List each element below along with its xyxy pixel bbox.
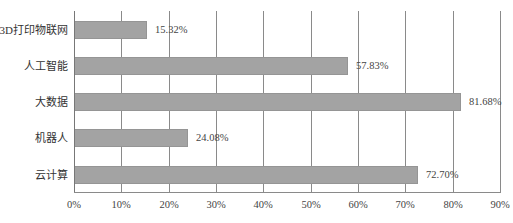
- x-axis-line: [74, 192, 501, 193]
- category-label: 人工智能: [0, 57, 68, 75]
- bar-ai: [75, 57, 348, 75]
- x-tick-label: 30%: [196, 199, 236, 210]
- x-tick-label: 80%: [433, 199, 473, 210]
- x-tick-label: 20%: [149, 199, 189, 210]
- value-label: 57.83%: [356, 57, 388, 75]
- value-label: 24.08%: [196, 129, 228, 147]
- x-tick-label: 0%: [54, 199, 94, 210]
- x-tick-label: 60%: [338, 199, 378, 210]
- x-tick-label: 10%: [101, 199, 141, 210]
- value-label: 15.32%: [155, 21, 187, 39]
- horizontal-bar-chart: 3D打印物联网 人工智能 大数据 机器人 云计算 15.32% 57.83% 8…: [0, 0, 513, 223]
- x-tick-label: 40%: [243, 199, 283, 210]
- x-tick-label: 50%: [291, 199, 331, 210]
- bar-3d-printing-iot: [75, 21, 147, 39]
- category-label: 机器人: [0, 129, 68, 147]
- category-label: 云计算: [0, 166, 68, 184]
- bar-robotics: [75, 129, 188, 147]
- x-tick-label: 90%: [480, 199, 513, 210]
- category-label: 大数据: [0, 93, 68, 111]
- value-label: 81.68%: [469, 93, 501, 111]
- bar-cloud-computing: [75, 166, 418, 184]
- category-label: 3D打印物联网: [0, 21, 68, 39]
- value-label: 72.70%: [426, 166, 458, 184]
- x-tick-label: 70%: [385, 199, 425, 210]
- bar-big-data: [75, 93, 461, 111]
